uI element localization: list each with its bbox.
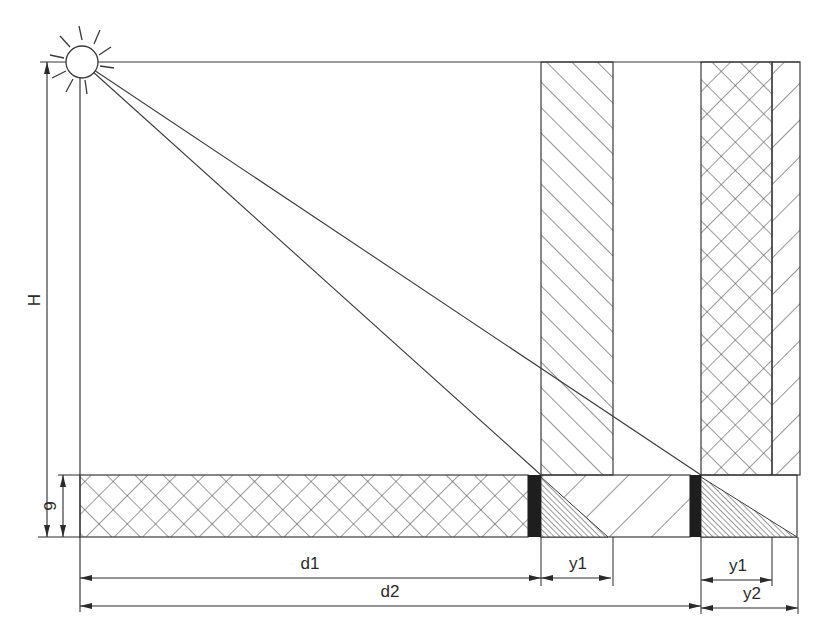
- sun-icon: [50, 26, 114, 94]
- ground-band-crosshatch: [80, 475, 528, 537]
- light-ray-1: [82, 62, 541, 475]
- dimension-H: H: [25, 62, 47, 537]
- label-d1: d1: [301, 554, 320, 573]
- label-ground-height: 9: [41, 501, 60, 510]
- label-H: H: [25, 294, 44, 306]
- label-y2: y2: [743, 584, 761, 603]
- dimension-y1-left: y1: [541, 554, 611, 578]
- obstruction-1-hatched: [541, 62, 613, 475]
- diagram-canvas: H 9 d1 y1 d2 y1 y2: [0, 0, 824, 638]
- label-d2: d2: [381, 582, 400, 601]
- dimension-d1: d1: [80, 554, 541, 578]
- black-bar-1: [528, 475, 541, 537]
- black-bar-2: [690, 475, 701, 537]
- dimension-y1-right: y1: [701, 556, 772, 580]
- obstruction-2-crosshatch: [701, 62, 772, 475]
- obstruction-2-edge-strip: [772, 62, 800, 475]
- label-y1-left: y1: [569, 554, 587, 573]
- dimension-ground-height: 9: [38, 475, 80, 537]
- label-y1-right: y1: [729, 556, 747, 575]
- dimension-d2: d2: [80, 582, 701, 606]
- dimension-y2: y2: [701, 584, 798, 608]
